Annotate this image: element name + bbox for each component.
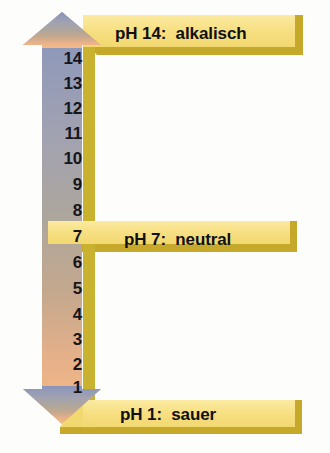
ph-diagram-canvas: [0, 0, 330, 453]
ph14-bar-label: pH 14: alkalisch: [115, 25, 247, 42]
ph7-bar-label: pH 7: neutral: [124, 231, 231, 248]
ph1-bar-label: pH 1: sauer: [120, 406, 216, 423]
ph-scale-diagram: 14 13 12 11 10 9 8 7 6 5 4 3 2 1 pH 14: …: [0, 0, 330, 453]
